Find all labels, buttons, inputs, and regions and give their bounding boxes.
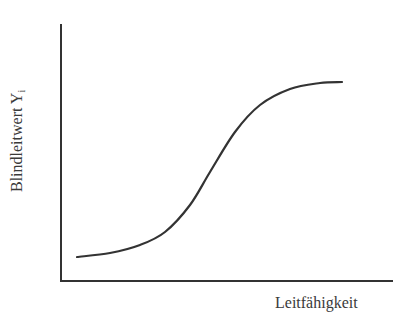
y-axis-label: Blindleitwert Yi: [8, 25, 28, 195]
chart-canvas: [0, 0, 414, 326]
y-axis-label-text: Blindleitwert Y: [8, 93, 25, 192]
x-axis-label: Leitfähigkeit: [275, 294, 358, 312]
sigmoid-curve: [77, 82, 342, 257]
chart: Blindleitwert Yi Leitfähigkeit: [0, 0, 414, 326]
y-axis-label-subscript: i: [16, 90, 27, 93]
